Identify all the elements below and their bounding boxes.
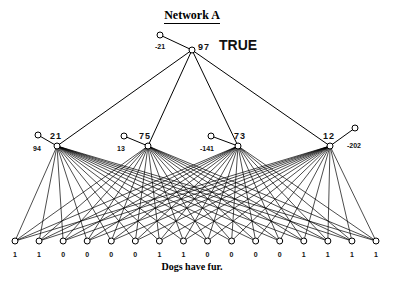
input-node [205, 238, 211, 244]
output-node [189, 47, 195, 53]
input-value: 1 [302, 251, 306, 258]
input-value: 1 [13, 251, 17, 258]
input-value: 0 [61, 251, 65, 258]
input-value: 0 [206, 251, 210, 258]
input-node [156, 238, 162, 244]
input-value: 1 [181, 251, 185, 258]
caption: Dogs have fur. [0, 261, 384, 272]
input-value: 1 [374, 251, 378, 258]
output-label: TRUE [219, 37, 257, 53]
hidden-activation: 12 [323, 131, 335, 141]
hidden-activation: 75 [139, 131, 151, 141]
hidden-node [235, 143, 241, 149]
hidden-node [54, 143, 60, 149]
input-value: 0 [109, 251, 113, 258]
input-node [180, 238, 186, 244]
input-node [84, 238, 90, 244]
input-value: 0 [230, 251, 234, 258]
hidden-bias: -141 [200, 145, 214, 152]
input-node [253, 238, 259, 244]
output-activation: 97 [198, 42, 210, 52]
hidden-bias-node [35, 132, 41, 138]
hidden-bias: -202 [347, 142, 361, 149]
input-value: 1 [157, 251, 161, 258]
input-value: 0 [278, 251, 282, 258]
input-node [36, 238, 42, 244]
hidden-bias-node [121, 133, 127, 139]
hidden-activation: 21 [50, 131, 62, 141]
hidden-bias-node [352, 125, 358, 131]
input-node [349, 238, 355, 244]
input-value: 0 [133, 251, 137, 258]
input-node [132, 238, 138, 244]
input-node [373, 238, 379, 244]
input-value: 0 [254, 251, 258, 258]
input-node [60, 238, 66, 244]
input-node [12, 238, 18, 244]
output-bias: -21 [155, 43, 165, 50]
input-value: 1 [350, 251, 354, 258]
input-node [325, 238, 331, 244]
input-value: 1 [37, 251, 41, 258]
input-node [277, 238, 283, 244]
output-bias-node [157, 32, 163, 38]
input-node [301, 238, 307, 244]
hidden-node [327, 143, 333, 149]
input-value: 1 [326, 251, 330, 258]
input-value: 0 [85, 251, 89, 258]
hidden-bias: 94 [33, 145, 41, 152]
hidden-node [145, 143, 151, 149]
hidden-bias-node [208, 133, 214, 139]
input-node [108, 238, 114, 244]
hidden-bias: 13 [117, 145, 125, 152]
input-node [229, 238, 235, 244]
hidden-activation: 73 [234, 131, 246, 141]
